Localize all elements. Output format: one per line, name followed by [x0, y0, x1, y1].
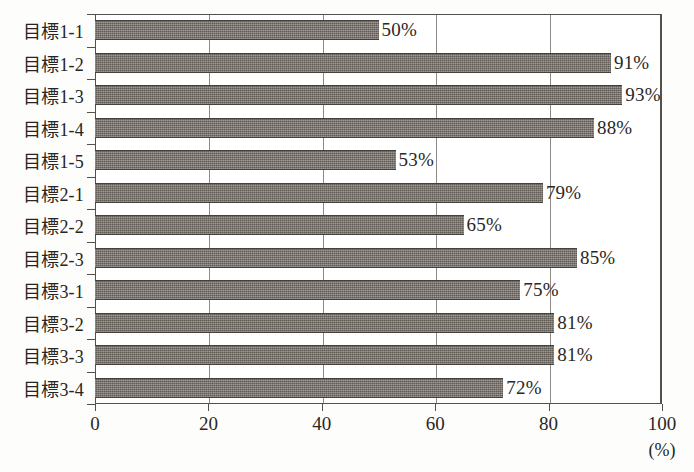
category-tick: [87, 79, 95, 80]
value-tick-label: 60: [426, 413, 445, 435]
bar-value-label: 91%: [611, 48, 649, 78]
bar: [95, 378, 503, 398]
bar-value-label: 81%: [554, 340, 592, 370]
axis-unit-label: (%): [649, 440, 676, 461]
bar: [95, 20, 379, 40]
bar: [95, 313, 554, 333]
value-tick: [322, 404, 323, 411]
bar-row: 93%: [95, 79, 662, 112]
bar-value-label: 72%: [503, 373, 541, 403]
category-tick: [87, 47, 95, 48]
category-label: 目標1-3: [23, 79, 84, 112]
bar: [95, 150, 396, 170]
bar-value-label: 79%: [543, 178, 581, 208]
category-label: 目標1-5: [23, 144, 84, 177]
category-label: 目標1-1: [23, 14, 84, 47]
bar-row: 81%: [95, 339, 662, 372]
category-tick: [87, 177, 95, 178]
bar-row: 50%: [95, 14, 662, 47]
bars-layer: 50%91%93%88%53%79%65%85%75%81%81%72%: [95, 14, 662, 404]
bar-value-label: 53%: [396, 145, 434, 175]
bar-value-label: 88%: [594, 113, 632, 143]
value-tick-label: 0: [90, 413, 100, 435]
category-tick: [87, 14, 95, 15]
bar-value-label: 93%: [622, 80, 660, 110]
bar-row: 75%: [95, 274, 662, 307]
category-label: 目標3-3: [23, 339, 84, 372]
bar: [95, 248, 577, 268]
category-tick: [87, 144, 95, 145]
value-tick-label: 100: [648, 413, 677, 435]
bar-row: 85%: [95, 242, 662, 275]
bar: [95, 53, 611, 73]
category-label: 目標2-2: [23, 209, 84, 242]
category-label: 目標3-2: [23, 307, 84, 340]
bar-row: 72%: [95, 372, 662, 405]
category-tick: [87, 242, 95, 243]
value-tick: [95, 404, 96, 411]
bar: [95, 215, 464, 235]
bar-chart-figure: 目標1-1目標1-2目標1-3目標1-4目標1-5目標2-1目標2-2目標2-3…: [0, 0, 694, 472]
category-tick: [87, 307, 95, 308]
bar: [95, 85, 622, 105]
category-tick: [87, 404, 95, 405]
category-label: 目標2-3: [23, 242, 84, 275]
bar-value-label: 75%: [520, 275, 558, 305]
category-tick: [87, 339, 95, 340]
bar-row: 81%: [95, 307, 662, 340]
category-tick: [87, 274, 95, 275]
value-axis: (%) 020406080100: [95, 404, 662, 466]
bar: [95, 280, 520, 300]
category-label: 目標1-2: [23, 47, 84, 80]
value-tick: [662, 404, 663, 411]
category-axis: 目標1-1目標1-2目標1-3目標1-4目標1-5目標2-1目標2-2目標2-3…: [0, 14, 95, 404]
category-label: 目標3-1: [23, 274, 84, 307]
category-tick: [87, 209, 95, 210]
bar-row: 79%: [95, 177, 662, 210]
value-tick: [208, 404, 209, 411]
bar-row: 91%: [95, 47, 662, 80]
value-tick-label: 40: [312, 413, 331, 435]
value-tick: [435, 404, 436, 411]
bar-value-label: 65%: [464, 210, 502, 240]
value-tick-label: 80: [539, 413, 558, 435]
bar-row: 88%: [95, 112, 662, 145]
bar-value-label: 85%: [577, 243, 615, 273]
category-label: 目標2-1: [23, 177, 84, 210]
bar: [95, 118, 594, 138]
bar: [95, 183, 543, 203]
value-tick-label: 20: [199, 413, 218, 435]
bar-value-label: 81%: [554, 308, 592, 338]
category-label: 目標3-4: [23, 372, 84, 405]
category-tick: [87, 372, 95, 373]
value-tick: [549, 404, 550, 411]
bar-value-label: 50%: [379, 15, 417, 45]
category-label: 目標1-4: [23, 112, 84, 145]
bar-row: 65%: [95, 209, 662, 242]
bar: [95, 345, 554, 365]
bar-row: 53%: [95, 144, 662, 177]
category-tick: [87, 112, 95, 113]
